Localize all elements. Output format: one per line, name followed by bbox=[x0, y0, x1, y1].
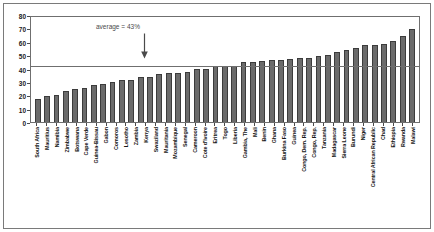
bar-slot bbox=[351, 17, 360, 122]
bar-slot bbox=[201, 17, 210, 122]
x-tick-label: Mozambique bbox=[172, 127, 178, 159]
x-label-slot: Cameroon bbox=[190, 127, 200, 227]
x-label-slot: Madagascar bbox=[329, 127, 339, 227]
bar bbox=[119, 80, 125, 122]
x-label-slot: Senegal bbox=[180, 127, 190, 227]
x-tick-label: Eritrea bbox=[212, 127, 218, 143]
bar bbox=[44, 96, 50, 122]
x-tick-label: Congo, Rep. bbox=[311, 127, 317, 158]
x-tick-label: Senegal bbox=[182, 127, 188, 147]
bar bbox=[241, 62, 247, 122]
x-tick-label: Burkina Faso bbox=[281, 127, 287, 160]
bar-slot bbox=[286, 17, 295, 122]
bar bbox=[194, 69, 200, 122]
bar-slot bbox=[155, 17, 164, 122]
x-tick-mark bbox=[214, 123, 215, 126]
bar bbox=[278, 60, 284, 122]
bar-slot bbox=[276, 17, 285, 122]
x-label-slot: Zimbabwe bbox=[62, 127, 72, 227]
bar-slot bbox=[164, 17, 173, 122]
x-tick-label: Malawi bbox=[410, 127, 416, 144]
x-tick-mark bbox=[135, 123, 136, 126]
bar-slot bbox=[304, 17, 313, 122]
x-tick-label: South Africa bbox=[34, 127, 40, 158]
bar bbox=[269, 60, 275, 122]
bar-slot bbox=[173, 17, 182, 122]
bar bbox=[166, 73, 172, 122]
x-tick-label: Tanzania bbox=[321, 127, 327, 149]
bar-slot bbox=[89, 17, 98, 122]
x-label-slot: South Africa bbox=[32, 127, 42, 227]
bar-slot bbox=[80, 17, 89, 122]
bar-series bbox=[31, 17, 419, 122]
bar-slot bbox=[314, 17, 323, 122]
x-label-slot: Zambia bbox=[131, 127, 141, 227]
x-tick-mark bbox=[363, 123, 364, 126]
bar bbox=[222, 66, 228, 122]
x-tick-mark bbox=[46, 123, 47, 126]
x-tick-label: Cameroon bbox=[192, 127, 198, 153]
y-tick-label: 60 bbox=[19, 39, 26, 46]
bar bbox=[344, 50, 350, 122]
bar bbox=[306, 58, 312, 122]
bar bbox=[287, 59, 293, 122]
y-tick-label: 70 bbox=[19, 26, 26, 33]
bar bbox=[381, 44, 387, 122]
bar bbox=[362, 45, 368, 122]
bar bbox=[35, 99, 41, 122]
x-label-slot: Mozambique bbox=[170, 127, 180, 227]
x-tick-mark bbox=[76, 123, 77, 126]
bar bbox=[409, 29, 415, 122]
y-tick-label: 30 bbox=[19, 79, 26, 86]
x-tick-label: Mauritius bbox=[44, 127, 50, 150]
bar-slot bbox=[379, 17, 388, 122]
x-tick-label: Niger bbox=[360, 127, 366, 140]
x-tick-mark bbox=[313, 123, 314, 126]
x-label-slot: Eritrea bbox=[210, 127, 220, 227]
x-tick-label: Rwanda bbox=[400, 127, 406, 147]
bar-slot bbox=[407, 17, 416, 122]
x-label-slot: Malawi bbox=[408, 127, 418, 227]
x-tick-mark bbox=[294, 123, 295, 126]
bar-slot bbox=[258, 17, 267, 122]
x-tick-label: Guinea-Bissau bbox=[93, 127, 99, 163]
x-label-slot: Togo bbox=[220, 127, 230, 227]
bar bbox=[138, 77, 144, 122]
x-label-slot: Namibia bbox=[52, 127, 62, 227]
x-tick-mark bbox=[175, 123, 176, 126]
bar-slot bbox=[389, 17, 398, 122]
x-tick-label: Chad bbox=[380, 127, 386, 140]
average-reference-line bbox=[31, 66, 419, 67]
bar-chart-figure: 01020304050607080 average = 43% South Af… bbox=[0, 0, 434, 232]
x-tick-label: Ethiopia bbox=[390, 127, 396, 147]
x-tick-label: Namibia bbox=[54, 127, 60, 147]
bar bbox=[91, 85, 97, 122]
bar-slot bbox=[33, 17, 42, 122]
bar bbox=[297, 58, 303, 122]
x-tick-mark bbox=[284, 123, 285, 126]
x-tick-label: Cape Verde bbox=[83, 127, 89, 155]
x-tick-mark bbox=[333, 123, 334, 126]
x-label-slot: Sierra Leone bbox=[339, 127, 349, 227]
x-label-slot: Ghana bbox=[269, 127, 279, 227]
x-tick-label: Comoros bbox=[113, 127, 119, 150]
x-label-slot: Lesotho bbox=[121, 127, 131, 227]
x-label-slot: Mali bbox=[250, 127, 260, 227]
x-tick-label: Congo, Dem. Rep. bbox=[301, 127, 307, 172]
x-label-slot: Congo, Dem. Rep. bbox=[299, 127, 309, 227]
x-tick-mark bbox=[125, 123, 126, 126]
x-label-slot: Mauritius bbox=[42, 127, 52, 227]
x-tick-label: Burundi bbox=[350, 127, 356, 147]
x-tick-mark bbox=[116, 123, 117, 126]
bar-slot bbox=[52, 17, 61, 122]
bar-slot bbox=[248, 17, 257, 122]
x-tick-label: Central African Republic bbox=[370, 127, 376, 187]
x-tick-mark bbox=[145, 123, 146, 126]
x-tick-label: Zimbabwe bbox=[64, 127, 70, 153]
x-label-slot: Botswana bbox=[72, 127, 82, 227]
bar-slot bbox=[333, 17, 342, 122]
y-tick-label: 40 bbox=[19, 66, 26, 73]
x-label-slot: Niger bbox=[358, 127, 368, 227]
x-tick-label: Zambia bbox=[133, 127, 139, 145]
x-tick-label: Kenya bbox=[143, 127, 149, 143]
